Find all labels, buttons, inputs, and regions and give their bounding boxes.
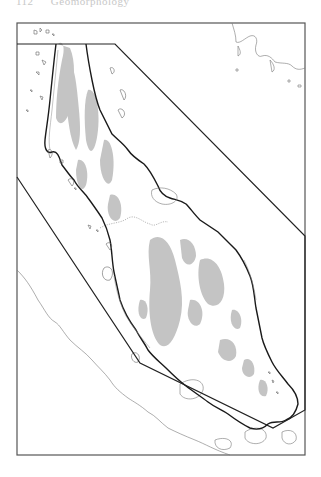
sumatra-coastline (17, 270, 230, 455)
lagoon (151, 188, 177, 204)
sumatra-islands (180, 380, 296, 450)
gulf-islands (236, 46, 301, 87)
highlands (56, 43, 268, 397)
indochina-coastline (232, 23, 305, 69)
map-figure (0, 0, 321, 477)
international-border (100, 217, 168, 228)
